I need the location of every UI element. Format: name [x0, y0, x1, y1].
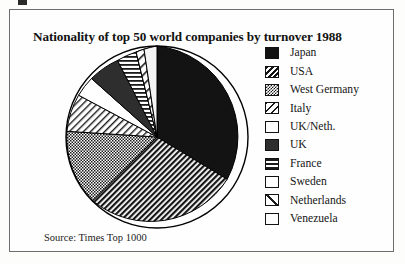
legend-item-sweden[interactable]: Sweden [265, 173, 395, 191]
scan-artifact-mark [18, 0, 27, 5]
legend-item-france[interactable]: France [265, 154, 395, 172]
legend-item-venezuela[interactable]: Venezuela [265, 210, 395, 228]
legend-swatch-sweden-icon [265, 176, 279, 188]
pie-chart-svg [64, 44, 250, 230]
pie-chart [64, 44, 250, 230]
legend-item-uk-neth[interactable]: UK/Neth. [265, 118, 395, 136]
legend-swatch-italy-icon [265, 102, 279, 114]
legend-label-uk-neth: UK/Neth. [290, 121, 335, 133]
legend-item-uk[interactable]: UK [265, 136, 395, 154]
legend-label-netherlands: Netherlands [290, 195, 346, 207]
legend-label-france: France [290, 158, 322, 170]
figure-root: Nationality of top 50 world companies by… [0, 0, 405, 264]
legend-label-venezuela: Venezuela [290, 213, 338, 225]
legend-label-usa: USA [290, 66, 313, 78]
legend-swatch-usa-icon [265, 66, 279, 78]
legend-item-netherlands[interactable]: Netherlands [265, 191, 395, 209]
legend-swatch-uk-icon [265, 139, 279, 151]
chart-source-note: Source: Times Top 1000 [44, 232, 147, 243]
legend-swatch-uk-neth-icon [265, 121, 279, 133]
legend-swatch-venezuela-icon [265, 213, 279, 225]
legend-label-west-germany: West Germany [290, 84, 359, 96]
legend-label-italy: Italy [290, 103, 311, 115]
legend-label-sweden: Sweden [290, 176, 327, 188]
legend-item-west-germany[interactable]: West Germany [265, 81, 395, 99]
legend-swatch-japan-icon [265, 47, 279, 59]
legend-item-italy[interactable]: Italy [265, 99, 395, 117]
legend-swatch-france-icon [265, 158, 279, 170]
chart-title: Nationality of top 50 world companies by… [33, 29, 363, 45]
legend-item-usa[interactable]: USA [265, 62, 395, 80]
legend-label-japan: Japan [290, 47, 316, 59]
legend-label-uk: UK [290, 139, 307, 151]
legend: Japan USA West Germany Italy UK/Neth. UK… [265, 44, 395, 228]
legend-swatch-netherlands-icon [265, 194, 279, 206]
legend-swatch-west-germany-icon [265, 84, 279, 96]
legend-item-japan[interactable]: Japan [265, 44, 395, 62]
